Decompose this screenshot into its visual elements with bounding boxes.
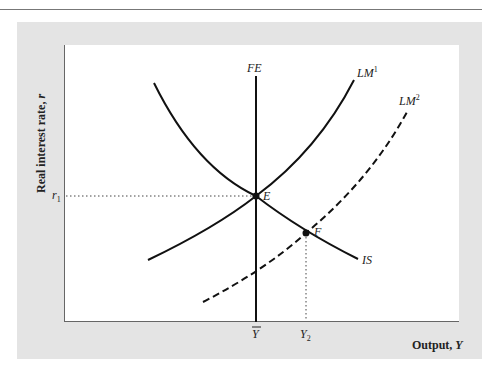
- is-label: IS: [361, 253, 372, 267]
- point-e: [253, 193, 260, 200]
- lm2-curve: [203, 112, 407, 302]
- r1-tick-label: r1: [52, 188, 61, 204]
- y2-tick-label: Y2: [300, 327, 311, 343]
- ybar-tick-label: Y: [252, 327, 260, 341]
- point-f: [303, 230, 310, 237]
- lm1-curve: [148, 80, 354, 260]
- e-label: E: [262, 189, 271, 203]
- chart-canvas: FE LM1 LM2 IS E F r1 Y Y2: [0, 0, 498, 374]
- lm1-label: LM1: [356, 65, 378, 80]
- fe-label: FE: [246, 61, 262, 75]
- f-label: F: [313, 225, 322, 239]
- lm2-label: LM2: [398, 93, 420, 108]
